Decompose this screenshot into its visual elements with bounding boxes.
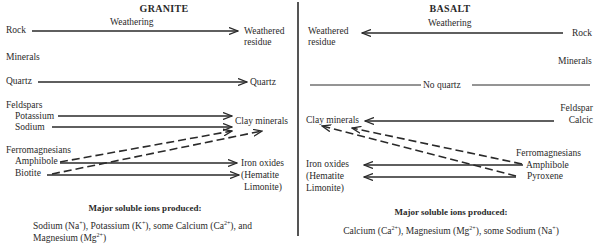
basalt-residue-label: residue <box>308 37 335 48</box>
basalt-ions-line-1: Calcium (Ca2+), Magnesium (Mg2+), some S… <box>343 225 559 237</box>
granite-hematite-label: (Hematite <box>241 170 279 181</box>
granite-amphibole-label: Amphibole <box>15 156 58 167</box>
basalt-minerals-heading: Minerals <box>558 56 592 67</box>
basalt-feldspar-heading: Feldspar <box>560 103 593 114</box>
granite-rock-label: Rock <box>6 25 26 36</box>
granite-weathering-label: Weathering <box>110 17 154 28</box>
granite-biotite-label: Biotite <box>15 168 41 179</box>
basalt-rock-label: Rock <box>572 28 592 39</box>
granite-sodium-label: Sodium <box>15 122 45 133</box>
granite-feldspars-heading: Feldspars <box>6 100 42 111</box>
basalt-pyroxene-clay-dashed <box>322 126 516 176</box>
granite-clay-minerals-label: Clay minerals <box>235 116 288 127</box>
granite-quartz-result: Quartz <box>250 77 276 88</box>
basalt-amphibole-clay-dashed <box>352 128 522 164</box>
basalt-weathered-label: Weathered <box>308 26 348 37</box>
basalt-pyroxene-label: Pyroxene <box>527 171 563 182</box>
basalt-iron-oxides-label: Iron oxides <box>306 159 349 170</box>
granite-limonite-label: Limonite) <box>244 182 282 193</box>
basalt-calcic-label: Calcic <box>569 115 593 126</box>
granite-residue-label: residue <box>244 37 271 48</box>
granite-ions-line-1: Sodium (Na+), Potassium (K+), some Calci… <box>33 220 252 232</box>
basalt-no-quartz-label: No quartz <box>423 80 461 91</box>
basalt-amphibole-label: Amphibole <box>526 160 569 171</box>
basalt-ferromagnesians-heading: Ferromagnesians <box>516 148 581 159</box>
granite-weathered-label: Weathered <box>244 26 284 37</box>
granite-quartz-source: Quartz <box>6 76 32 87</box>
granite-minerals-heading: Minerals <box>6 52 40 63</box>
basalt-limonite-label: Limonite) <box>306 183 344 194</box>
granite-biotite-clay-dashed <box>52 131 262 174</box>
granite-amphibole-clay-dashed <box>60 131 232 162</box>
basalt-ions-heading: Major soluble ions produced: <box>395 207 508 218</box>
basalt-weathering-label: Weathering <box>428 18 472 29</box>
basalt-hematite-label: (Hematite <box>306 171 344 182</box>
granite-title: GRANITE <box>140 3 189 14</box>
granite-ferromagnesians-heading: Ferromagnesians <box>6 145 71 156</box>
basalt-clay-minerals-label: Clay minerals <box>306 115 359 126</box>
granite-potassium-label: Potassium <box>15 111 54 122</box>
granite-iron-oxides-label: Iron oxides <box>241 158 284 169</box>
basalt-title: BASALT <box>430 3 471 14</box>
granite-ions-heading: Major soluble ions produced: <box>89 203 202 214</box>
granite-ions-line-2: Magnesium (Mg2+) <box>33 232 106 244</box>
panel-divider <box>297 2 299 236</box>
